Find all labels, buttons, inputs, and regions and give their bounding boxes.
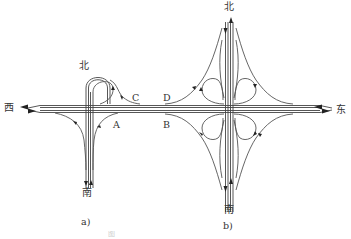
figure-caption: 图 <box>108 231 236 237</box>
label-north-b: 北 <box>224 2 234 12</box>
label-south-a: 南 <box>82 188 92 198</box>
label-west: 西 <box>4 103 14 113</box>
label-north-a: 北 <box>79 61 89 71</box>
label-point-a: A <box>113 120 120 130</box>
label-point-b: B <box>163 120 170 130</box>
label-point-c: C <box>132 93 139 103</box>
label-panel-a: a) <box>81 217 90 227</box>
ramp-d <box>165 28 222 190</box>
panel-b-interchange <box>192 17 293 212</box>
label-east: 东 <box>336 105 346 115</box>
panel-a-interchange <box>55 78 140 189</box>
west-arrows <box>20 105 36 114</box>
main-east-west-highway <box>28 106 332 113</box>
interchange-diagram <box>0 0 351 239</box>
label-panel-b: b) <box>223 221 233 231</box>
label-south-b: 南 <box>224 205 234 215</box>
label-point-d: D <box>163 93 171 103</box>
